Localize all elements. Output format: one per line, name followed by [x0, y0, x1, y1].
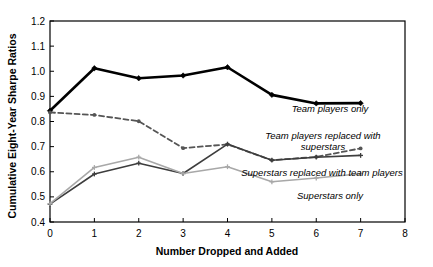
series-annotation-label: Superstars replaced with team players: [241, 167, 403, 178]
x-tick-label: 7: [358, 228, 364, 239]
x-tick-label: 8: [402, 228, 408, 239]
data-point-marker: [181, 146, 185, 150]
data-point-marker: [137, 119, 141, 123]
x-tick-label: 0: [47, 228, 53, 239]
y-axis-title: Cumulative Eight-Year Sharpe Ratios: [6, 33, 18, 218]
x-axis-title-text: Number Dropped and Added: [156, 245, 299, 257]
y-tick-label: 1.2: [31, 16, 45, 27]
y-tick-label: 0.7: [31, 141, 45, 152]
y-tick-label: 0.4: [31, 217, 45, 228]
x-axis-title: Number Dropped and Added: [156, 245, 299, 257]
y-tick-label: 0.9: [31, 91, 45, 102]
x-tick-label: 2: [136, 228, 142, 239]
chart-container: Cumulative Eight-Year Sharpe Ratios 0.40…: [0, 0, 433, 267]
y-tick-label: 0.8: [31, 116, 45, 127]
y-axis-tick-labels: 0.40.50.60.70.80.91.01.11.2: [31, 16, 45, 228]
x-tick-label: 3: [180, 228, 186, 239]
series-annotation-label: Superstars only: [297, 190, 364, 201]
x-tick-label: 1: [92, 228, 98, 239]
data-point-marker: [48, 111, 52, 115]
y-tick-label: 1.1: [31, 41, 45, 52]
x-tick-label: 6: [313, 228, 319, 239]
y-tick-label: 1.0: [31, 66, 45, 77]
y-tick-label: 0.5: [31, 191, 45, 202]
x-tick-label: 4: [225, 228, 231, 239]
data-point-marker: [359, 146, 363, 150]
data-point-marker: [92, 113, 96, 117]
y-tick-label: 0.6: [31, 166, 45, 177]
series-annotation-label: Team players only: [292, 103, 370, 114]
sharpe-ratio-line-chart: Cumulative Eight-Year Sharpe Ratios 0.40…: [0, 0, 433, 267]
x-tick-label: 5: [269, 228, 275, 239]
y-axis-title-text: Cumulative Eight-Year Sharpe Ratios: [6, 33, 18, 218]
